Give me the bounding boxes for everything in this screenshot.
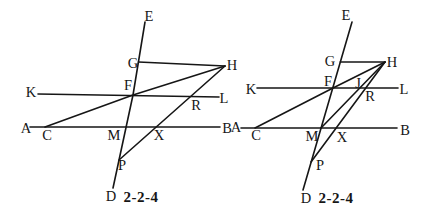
point-label-H-left: H xyxy=(227,57,238,73)
point-label-M-right: M xyxy=(306,128,319,144)
geometry-diagram: EGHKFRLACMXBPD2-2-4EGHKFJRLACMXBPD2-2-4 xyxy=(0,0,429,218)
point-label-J-right: J xyxy=(355,75,361,91)
point-label-L-right: L xyxy=(400,81,409,97)
point-label-G-right: G xyxy=(325,53,336,69)
transversal-ED xyxy=(303,22,352,190)
point-label-K-left: K xyxy=(26,84,37,100)
point-label-D-right: D xyxy=(301,190,311,206)
point-label-D-left: D xyxy=(106,188,116,204)
point-label-E-left: E xyxy=(145,8,154,24)
point-label-R-right: R xyxy=(365,88,375,104)
point-label-P-right: P xyxy=(316,157,324,173)
point-label-P-left: P xyxy=(118,157,126,173)
point-label-K-right: K xyxy=(246,81,257,97)
point-label-B-right: B xyxy=(400,122,410,138)
segment-GH xyxy=(139,62,226,66)
point-label-F-left: F xyxy=(124,77,132,93)
point-label-F-right: F xyxy=(324,73,332,89)
point-label-M-left: M xyxy=(108,127,121,143)
point-label-C-left: C xyxy=(42,127,52,143)
point-label-L-left: L xyxy=(220,90,229,106)
figure-caption-right: 2-2-4 xyxy=(319,190,354,206)
point-label-E-right: E xyxy=(342,7,351,23)
point-label-A-right: A xyxy=(231,119,242,135)
point-label-C-right: C xyxy=(251,127,261,143)
point-label-X-right: X xyxy=(337,129,348,145)
point-label-X-left: X xyxy=(154,127,165,143)
point-label-H-right: H xyxy=(387,54,398,70)
line-HRXP xyxy=(311,62,385,162)
point-label-R-left: R xyxy=(191,97,201,113)
figure-right: EGHKFJRLACMXBPD2-2-4 xyxy=(231,7,410,206)
point-label-G-left: G xyxy=(128,55,139,71)
figure-left: EGHKFRLACMXBPD2-2-4 xyxy=(21,8,238,205)
page-background: EGHKFRLACMXBPD2-2-4EGHKFJRLACMXBPD2-2-4 xyxy=(0,0,429,218)
point-label-A-left: A xyxy=(21,120,32,136)
figure-caption-left: 2-2-4 xyxy=(124,189,159,205)
